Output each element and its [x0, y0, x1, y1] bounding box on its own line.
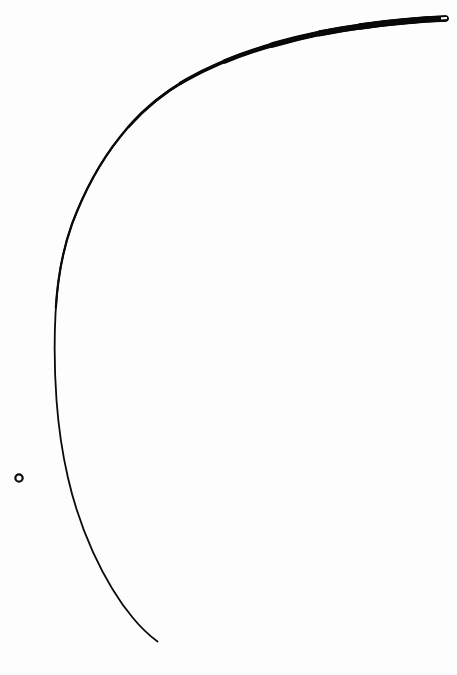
ink-drawing-layer: Hand-drawn arc with center mark [0, 0, 457, 675]
center-point-ring-icon [15, 474, 22, 481]
arc-stroke-w58 [55, 19, 446, 642]
arc-stroke-w28 [55, 19, 446, 642]
arc-tip-notch-icon [441, 17, 447, 20]
arc-stroke-w50 [55, 19, 446, 642]
arc-stroke-w42 [55, 19, 446, 642]
arc-stroke-heavy [55, 19, 446, 642]
arc-stroke-thin [55, 19, 446, 642]
arc-stroke-w23 [55, 19, 446, 642]
arc-stroke-w34 [55, 19, 446, 642]
drawing-canvas: Hand-drawn arc with center mark [0, 0, 457, 675]
main-arc-group [55, 17, 447, 642]
